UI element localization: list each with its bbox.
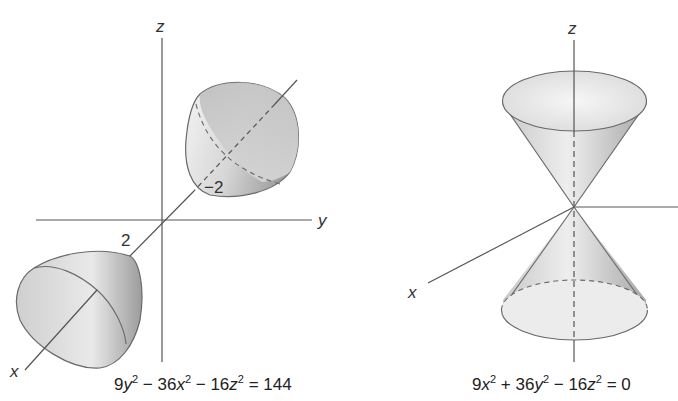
- tick-label-positive-x: 2: [121, 231, 130, 250]
- cone-x-axis-label: x: [407, 283, 417, 302]
- hyperboloid-figure: z y x 2 −2 9y2 − 36x2 − 16z2 = 144: [9, 17, 328, 394]
- hyperboloid-equation: 9y2 − 36x2 − 16z2 = 144: [114, 373, 292, 394]
- cone-equation: 9x2 + 36y2 − 16z2 = 0: [472, 373, 631, 394]
- y-axis-label: y: [317, 211, 328, 230]
- x-axis-label: x: [9, 362, 19, 381]
- tick-label-negative-x: −2: [204, 178, 223, 197]
- figure-canvas: z y x 2 −2 9y2 − 36x2 − 16z2 = 144: [0, 0, 678, 401]
- z-axis-label: z: [155, 17, 165, 36]
- cone-z-axis-label: z: [567, 19, 577, 38]
- cone-figure: z x 9x2 + 36y2 − 16z2 = 0: [407, 19, 678, 394]
